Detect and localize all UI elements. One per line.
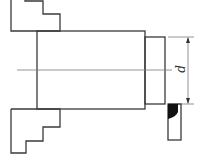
dimension-label: d (174, 65, 188, 73)
turning-diagram (0, 0, 199, 164)
arrow-down-icon (186, 98, 190, 104)
chuck-jaw-top (11, 0, 60, 31)
tool-insert (168, 104, 178, 119)
arrow-up-icon (186, 37, 190, 43)
workpiece-step (145, 37, 165, 104)
chuck-jaw-bottom (11, 109, 60, 153)
